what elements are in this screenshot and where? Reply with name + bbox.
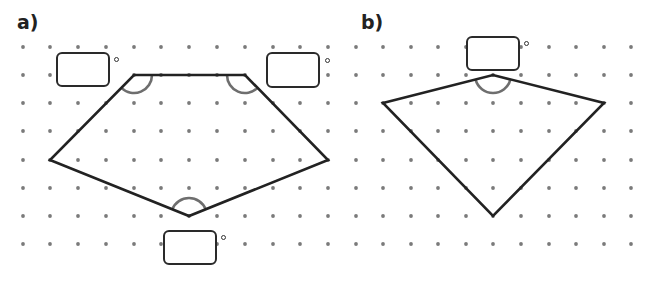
angle-arcs xyxy=(121,75,510,209)
grid-dot xyxy=(298,242,302,246)
grid-dot xyxy=(159,129,163,133)
grid-dot xyxy=(298,186,302,190)
grid-dot xyxy=(187,45,191,49)
grid-dot xyxy=(381,73,385,77)
grid-dot xyxy=(21,45,25,49)
grid-dot xyxy=(271,158,275,162)
grid-dot xyxy=(132,214,136,218)
grid-dot xyxy=(354,242,358,246)
grid-dot xyxy=(629,158,633,162)
grid-dot xyxy=(48,101,52,105)
degree-symbol-icon xyxy=(524,41,529,46)
degree-symbol-icon xyxy=(114,57,119,62)
grid-dot xyxy=(602,242,606,246)
grid-dot xyxy=(76,45,80,49)
grid-dot xyxy=(215,158,219,162)
grid-dot xyxy=(326,73,330,77)
grid-dot xyxy=(132,186,136,190)
angle-answer-box-a-2[interactable] xyxy=(266,52,320,88)
grid-dot xyxy=(298,158,302,162)
grid-dot xyxy=(48,73,52,77)
grid-dot xyxy=(547,214,551,218)
grid-dot xyxy=(602,214,606,218)
grid-dot xyxy=(519,129,523,133)
grid-dot xyxy=(104,186,108,190)
grid-dot xyxy=(187,129,191,133)
grid-dot xyxy=(159,158,163,162)
grid-dot xyxy=(159,101,163,105)
grid-dot xyxy=(354,129,358,133)
grid-dot xyxy=(326,45,330,49)
grid-dot xyxy=(574,214,578,218)
grid-dot xyxy=(132,158,136,162)
grid-dot xyxy=(409,242,413,246)
grid-dot xyxy=(21,129,25,133)
grid-dot xyxy=(48,214,52,218)
polygons xyxy=(50,75,604,216)
grid-dot xyxy=(381,214,385,218)
grid-dot xyxy=(409,73,413,77)
grid-dot xyxy=(243,186,247,190)
grid-dot xyxy=(271,45,275,49)
grid-dot xyxy=(76,158,80,162)
grid-dot xyxy=(326,242,330,246)
grid-dot xyxy=(159,186,163,190)
angle-answer-box-a-1[interactable] xyxy=(56,52,110,87)
grid-dot xyxy=(48,186,52,190)
angle-arc-marker xyxy=(172,198,205,209)
grid-dot xyxy=(574,158,578,162)
grid-dot xyxy=(21,242,25,246)
grid-dot xyxy=(326,129,330,133)
grid-dot xyxy=(464,129,468,133)
grid-dot xyxy=(354,214,358,218)
grid-dot xyxy=(547,242,551,246)
grid-dot xyxy=(464,214,468,218)
grid-dot xyxy=(491,158,495,162)
grid-dot xyxy=(187,101,191,105)
grid-dot xyxy=(519,214,523,218)
grid-dot xyxy=(298,101,302,105)
grid-dot xyxy=(629,242,633,246)
grid-dot xyxy=(629,129,633,133)
grid-dot xyxy=(602,73,606,77)
grid-dot xyxy=(104,214,108,218)
grid-dot xyxy=(574,186,578,190)
angle-arc-marker xyxy=(476,79,511,93)
grid-dot xyxy=(132,45,136,49)
dot-grid-canvas xyxy=(0,0,651,281)
grid-dot xyxy=(76,242,80,246)
grid-dot xyxy=(271,214,275,218)
grid-dot xyxy=(48,242,52,246)
grid-dot xyxy=(326,186,330,190)
part-b-kite xyxy=(383,75,604,216)
grid-dot xyxy=(602,158,606,162)
grid-dot xyxy=(243,158,247,162)
part-b-label: b) xyxy=(361,13,383,32)
grid-dot xyxy=(187,158,191,162)
grid-dot xyxy=(243,45,247,49)
grid-dot xyxy=(519,101,523,105)
grid-dot xyxy=(491,101,495,105)
grid-dot xyxy=(215,186,219,190)
grid-dot xyxy=(104,158,108,162)
angle-answer-box-a-3[interactable] xyxy=(163,230,217,265)
grid-dot xyxy=(436,214,440,218)
grid-dot xyxy=(602,45,606,49)
grid-dot xyxy=(436,129,440,133)
grid-dot xyxy=(629,214,633,218)
part-a-pentagon xyxy=(50,75,328,216)
grid-dot xyxy=(76,186,80,190)
grid-dot xyxy=(629,186,633,190)
grid-dot xyxy=(574,242,578,246)
grid-dot xyxy=(574,45,578,49)
grid-dot xyxy=(409,158,413,162)
grid-dot xyxy=(271,129,275,133)
grid-dot xyxy=(354,186,358,190)
grid-dot xyxy=(132,129,136,133)
grid-dot xyxy=(48,45,52,49)
angle-answer-box-b-1[interactable] xyxy=(466,36,520,71)
grid-dot xyxy=(271,186,275,190)
grid-dot xyxy=(602,129,606,133)
grid-dot xyxy=(104,45,108,49)
grid-dot xyxy=(215,214,219,218)
